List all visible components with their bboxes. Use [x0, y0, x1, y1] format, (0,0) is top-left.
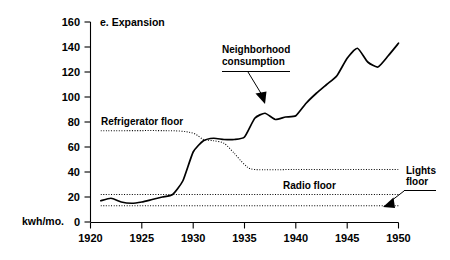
neighborhood-label-line1: Neighborhood	[222, 44, 290, 55]
y-tick-label-60: 60	[68, 141, 80, 153]
neighborhood-label-line2: consumption	[222, 56, 285, 67]
y-tick-label-120: 120	[62, 66, 80, 78]
y-tick-label-100: 100	[62, 91, 80, 103]
y-tick-label-20: 20	[68, 191, 80, 203]
panel-title: e. Expansion	[100, 16, 165, 28]
x-tick-label-1945: 1945	[335, 232, 359, 244]
y-tick-label-140: 140	[62, 41, 80, 53]
chart-background	[0, 0, 450, 260]
y-axis-unit-label: kwh/mo.	[22, 215, 64, 227]
lights-floor-label-line2: floor	[406, 176, 428, 187]
x-tick-label-1925: 1925	[130, 232, 154, 244]
chart-figure: 160 140 120 100 80 60 40 20 0 kwh/mo. 19…	[0, 0, 450, 260]
lights-floor-label-line1: Lights	[406, 165, 436, 176]
refrigerator-floor-label: Refrigerator floor	[101, 116, 183, 127]
annotation-radio-floor: Radio floor	[283, 180, 336, 191]
x-tick-label-1950: 1950	[386, 232, 410, 244]
expansion-line-chart: 160 140 120 100 80 60 40 20 0 kwh/mo. 19…	[0, 0, 450, 260]
x-tick-label-1920: 1920	[78, 232, 102, 244]
radio-floor-label: Radio floor	[283, 180, 336, 191]
annotation-refrigerator-floor: Refrigerator floor	[101, 116, 183, 127]
x-tick-label-1930: 1930	[181, 232, 205, 244]
y-tick-label-0: 0	[74, 216, 80, 228]
y-tick-label-160: 160	[62, 16, 80, 28]
x-tick-label-1940: 1940	[284, 232, 308, 244]
x-tick-label-1935: 1935	[232, 232, 256, 244]
y-tick-label-40: 40	[68, 166, 80, 178]
y-tick-label-80: 80	[68, 116, 80, 128]
